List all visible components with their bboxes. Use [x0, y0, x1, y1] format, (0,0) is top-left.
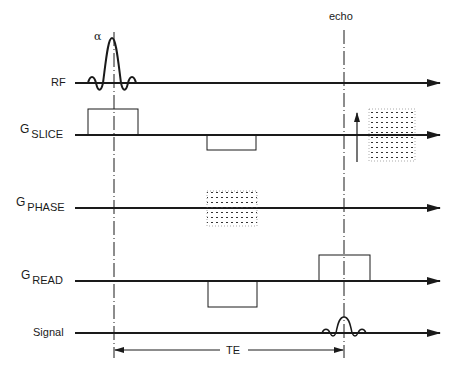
slice-spoiler-gradient-table [369, 109, 415, 161]
g-phase-row [75, 191, 440, 226]
slice-select-gradient-lobe [88, 109, 138, 135]
flip-angle-label: α [94, 30, 101, 43]
signal-row [75, 317, 440, 336]
g-phase-subscript: PHASE [27, 201, 64, 213]
te-label: TE [226, 344, 240, 356]
rf-row [75, 38, 440, 90]
echo-label: echo [329, 10, 353, 22]
rf-label: RF [51, 76, 66, 88]
g-read-label: GREAD [21, 268, 63, 282]
g-read-subscript: READ [32, 274, 63, 286]
g-slice-label: GSLICE [20, 122, 63, 136]
g-phase-prefix: G [16, 195, 25, 209]
rf-sinc-pulse-icon [88, 38, 136, 90]
readout-dephase-gradient-lobe [208, 281, 257, 307]
g-slice-subscript: SLICE [31, 128, 63, 140]
g-slice-row [75, 109, 440, 162]
g-phase-label: GPHASE [16, 195, 65, 209]
phase-encode-gradient-table [207, 191, 257, 226]
g-read-prefix: G [21, 268, 30, 282]
signal-label: Signal [33, 326, 64, 338]
g-read-row [75, 255, 440, 307]
pulse-sequence-diagram [0, 0, 454, 366]
g-slice-prefix: G [20, 122, 29, 136]
slice-rephase-gradient-lobe [207, 135, 256, 150]
